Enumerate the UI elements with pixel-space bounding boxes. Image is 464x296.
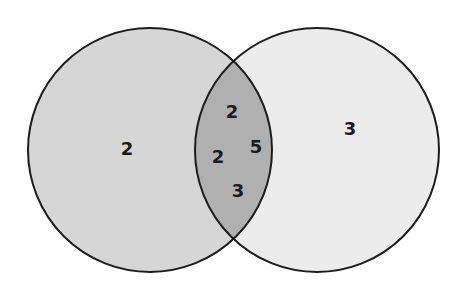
overlap-value: 2	[226, 101, 239, 122]
venn-diagram: 2 3 2 2 5 3	[0, 0, 464, 296]
overlap-value: 5	[250, 136, 263, 157]
overlap-value: 3	[232, 180, 245, 201]
left-only-value: 2	[121, 138, 134, 159]
right-only-value: 3	[344, 118, 357, 139]
overlap-value: 2	[212, 146, 225, 167]
